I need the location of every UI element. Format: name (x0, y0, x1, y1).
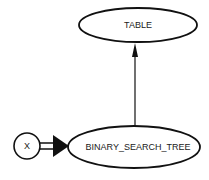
arrowhead-icon (132, 43, 138, 57)
arrowhead-icon (53, 135, 69, 157)
edge-bst-to-table (132, 43, 138, 126)
node-x-label: X (24, 141, 30, 151)
node-x: X (14, 133, 40, 159)
diagram-canvas: TABLE BINARY_SEARCH_TREE X (0, 0, 209, 180)
edge-x-to-bst (40, 135, 69, 157)
node-table-label: TABLE (124, 20, 152, 30)
node-bst-label: BINARY_SEARCH_TREE (86, 142, 191, 152)
node-bst: BINARY_SEARCH_TREE (68, 126, 200, 168)
node-table: TABLE (79, 8, 197, 42)
